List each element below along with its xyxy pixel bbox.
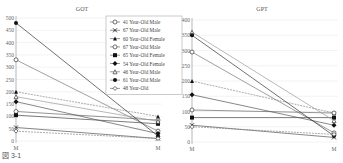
y-tick-label: 100 [6,113,15,119]
y-tick-label: 200 [6,89,15,95]
y-tick-label: 400 [6,40,15,46]
y-tick-label: 250 [182,63,191,69]
y-tick-label: 250 [6,77,15,83]
legend-item: 67 Year-Old Male [123,27,161,33]
y-tick-label: 500 [6,15,15,21]
chart-gpt: 050100150200250300350400GPTMM [182,6,338,152]
y-tick-label: 150 [182,93,191,99]
x-tick-label: M [156,145,161,151]
legend-item: 54 Year-Old Female [123,61,166,67]
legend-item: 60 Year-Old Female [123,36,166,42]
y-tick-label: 450 [6,27,15,33]
y-tick-label: 300 [6,64,15,70]
y-tick-label: 200 [182,78,191,84]
y-tick-label: 100 [182,109,191,115]
legend: 41 Year-Old Male67 Year-Old Male60 Year-… [106,16,182,95]
legend-item: 46 Year-Old Male [123,69,161,75]
legend-item: 65 Year-Old Female [123,52,166,58]
chart-got: 050100150200250300350400450500GOTMM41 Ye… [6,6,182,151]
x-tick-label: M [190,146,195,152]
y-tick-label: 150 [6,101,15,107]
chart-canvas: 050100150200250300350400450500GOTMM41 Ye… [0,0,343,163]
legend-item: 41 Year-Old Male [123,19,161,25]
y-tick-label: 350 [6,52,15,58]
y-tick-label: 50 [185,124,191,130]
chart-title: GPT [256,6,268,12]
y-tick-label: 0 [187,139,190,145]
y-tick-label: 300 [182,48,191,54]
chart-title: GOT [76,6,89,12]
y-tick-label: 350 [182,32,191,38]
x-tick-label: M [332,146,337,152]
legend-item: 67 Year-Old Male [123,44,161,50]
y-tick-label: 0 [11,138,14,144]
legend-item: 48 Year-Old [123,85,149,91]
figure-caption: 図 3-1 [2,150,21,160]
legend-item: 61 Year-Old Male [123,77,161,83]
y-tick-label: 50 [9,126,15,132]
y-tick-label: 400 [182,17,191,23]
